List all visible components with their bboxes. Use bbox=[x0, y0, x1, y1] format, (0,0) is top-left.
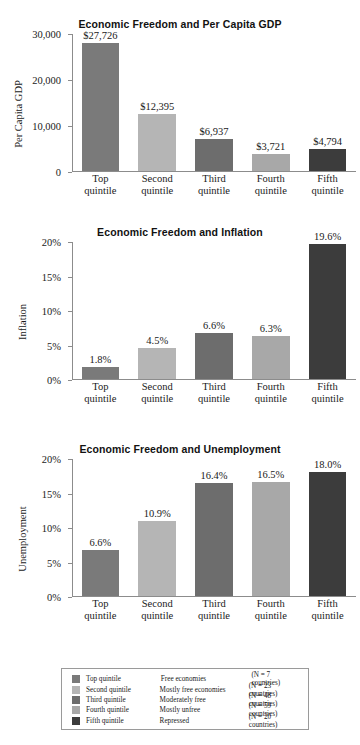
bar-value-label: $3,721 bbox=[256, 141, 285, 152]
y-tick-label: 5% bbox=[47, 340, 61, 351]
legend-swatch bbox=[72, 717, 80, 725]
y-tick-label: 20,000 bbox=[32, 75, 61, 86]
legend-quintile-label: Top quintile bbox=[86, 675, 161, 683]
bar-value-label: $12,395 bbox=[140, 101, 174, 112]
x-category-line: Fifth bbox=[312, 381, 344, 393]
x-category-label: Thirdquintile bbox=[198, 173, 230, 196]
x-category-line: Top bbox=[84, 381, 116, 393]
x-category-label: Fourthquintile bbox=[255, 173, 287, 196]
x-category-line: quintile bbox=[141, 610, 173, 622]
legend-quintile-label: Fifth quintile bbox=[86, 717, 160, 725]
x-category-label: Thirdquintile bbox=[198, 598, 230, 621]
x-category-line: Top bbox=[84, 598, 116, 610]
chart-inflation-plot: Inflation 0%5%10%15%20%1.8%Topquintile4.… bbox=[0, 242, 360, 402]
bar-value-label: 16.5% bbox=[257, 469, 284, 480]
bar-value-label: 10.9% bbox=[144, 508, 171, 519]
bar-value-label: 18.0% bbox=[314, 459, 341, 470]
bar-value-label: 6.6% bbox=[89, 537, 111, 548]
x-category-line: Fourth bbox=[255, 173, 287, 185]
x-category-line: Fourth bbox=[255, 381, 287, 393]
legend-quintile-label: Fourth quintile bbox=[86, 706, 160, 714]
x-category-line: Fourth bbox=[255, 598, 287, 610]
bar: $3,721Fourthquintile bbox=[252, 154, 289, 171]
bar-value-label: 1.8% bbox=[89, 354, 111, 365]
legend-swatch bbox=[72, 706, 80, 714]
bar-value-label: $6,937 bbox=[200, 126, 229, 137]
x-category-line: quintile bbox=[198, 185, 230, 197]
x-category-line: Second bbox=[141, 598, 173, 610]
bar-value-label: 6.6% bbox=[203, 320, 225, 331]
x-category-line: quintile bbox=[198, 610, 230, 622]
chart-unemployment-axes: 0%5%10%15%20%6.6%Topquintile10.9%Secondq… bbox=[72, 459, 356, 597]
y-tick: 5% bbox=[68, 563, 72, 564]
x-category-line: Second bbox=[141, 381, 173, 393]
y-tick: 10,000 bbox=[68, 126, 72, 127]
y-axis-line bbox=[72, 34, 73, 172]
chart-unemployment-ylabel: Unemployment bbox=[17, 479, 28, 599]
bar: 18.0%Fifthquintile bbox=[309, 472, 346, 596]
figure-page: Economic Freedom and Per Capita GDP Per … bbox=[0, 0, 360, 745]
y-tick: 0 bbox=[68, 172, 72, 173]
x-category-line: quintile bbox=[84, 393, 116, 405]
y-tick-label: 10% bbox=[42, 306, 61, 317]
chart-gdp-ylabel: Per Capita GDP bbox=[13, 54, 24, 174]
y-tick: 10% bbox=[68, 311, 72, 312]
bar-value-label: $4,794 bbox=[313, 136, 342, 147]
legend-swatch bbox=[72, 675, 80, 683]
chart-unemployment-plot: Unemployment 0%5%10%15%20%6.6%Topquintil… bbox=[0, 459, 360, 619]
chart-unemployment: Economic Freedom and Unemployment Unempl… bbox=[0, 443, 360, 619]
y-tick-label: 10,000 bbox=[32, 121, 61, 132]
bar: 1.8%Topquintile bbox=[82, 367, 119, 379]
chart-gdp-axes: 010,00020,00030,000$27,726Topquintile$12… bbox=[72, 34, 356, 172]
x-category-line: quintile bbox=[198, 393, 230, 405]
y-tick-label: 0% bbox=[47, 375, 61, 386]
y-tick-label: 30,000 bbox=[32, 29, 61, 40]
x-category-label: Topquintile bbox=[84, 381, 116, 404]
chart-inflation: Economic Freedom and Inflation Inflation… bbox=[0, 226, 360, 402]
legend-swatch bbox=[72, 696, 80, 704]
y-tick-label: 5% bbox=[47, 557, 61, 568]
x-category-label: Secondquintile bbox=[141, 381, 173, 404]
x-category-line: quintile bbox=[255, 185, 287, 197]
bar: 6.6%Thirdquintile bbox=[195, 333, 232, 379]
x-category-label: Secondquintile bbox=[141, 173, 173, 196]
y-tick-label: 15% bbox=[42, 271, 61, 282]
x-category-label: Fifthquintile bbox=[312, 173, 344, 196]
legend-quintile-label: Third quintile bbox=[86, 696, 160, 704]
legend-count: (N = 20 countries) bbox=[249, 713, 300, 729]
bar: 16.4%Thirdquintile bbox=[195, 483, 232, 596]
x-category-line: Fifth bbox=[312, 173, 344, 185]
bar: $12,395Secondquintile bbox=[138, 114, 175, 171]
y-tick: 5% bbox=[68, 346, 72, 347]
chart-inflation-axes: 0%5%10%15%20%1.8%Topquintile4.5%Secondqu… bbox=[72, 242, 356, 380]
x-category-line: quintile bbox=[84, 185, 116, 197]
x-category-line: Fifth bbox=[312, 598, 344, 610]
bar: $27,726Topquintile bbox=[82, 43, 119, 171]
x-category-line: quintile bbox=[312, 610, 344, 622]
bar: $6,937Thirdquintile bbox=[195, 139, 232, 171]
chart-gdp: Economic Freedom and Per Capita GDP Per … bbox=[0, 18, 360, 194]
x-category-line: Third bbox=[198, 598, 230, 610]
bar: 10.9%Secondquintile bbox=[138, 521, 175, 596]
x-category-line: Second bbox=[141, 173, 173, 185]
y-axis-line bbox=[72, 242, 73, 380]
x-category-label: Fourthquintile bbox=[255, 598, 287, 621]
x-category-label: Fourthquintile bbox=[255, 381, 287, 404]
bar: $4,794Fifthquintile bbox=[309, 149, 346, 171]
y-tick-label: 20% bbox=[42, 237, 61, 248]
x-axis-line bbox=[72, 171, 356, 172]
legend-quintile-label: Second quintile bbox=[86, 686, 160, 694]
chart-gdp-plot: Per Capita GDP 010,00020,00030,000$27,72… bbox=[0, 34, 360, 194]
legend-row: Fifth quintileRepressed(N = 20 countries… bbox=[72, 716, 300, 726]
x-category-label: Secondquintile bbox=[141, 598, 173, 621]
legend-description: Free economies bbox=[161, 675, 252, 683]
y-tick: 10% bbox=[68, 528, 72, 529]
legend-description: Moderately free bbox=[160, 696, 249, 704]
x-category-line: quintile bbox=[141, 393, 173, 405]
x-axis-line bbox=[72, 379, 356, 380]
x-axis-line bbox=[72, 596, 356, 597]
x-category-line: quintile bbox=[84, 610, 116, 622]
y-tick: 30,000 bbox=[68, 34, 72, 35]
y-tick: 20,000 bbox=[68, 80, 72, 81]
bar-value-label: 4.5% bbox=[146, 335, 168, 346]
